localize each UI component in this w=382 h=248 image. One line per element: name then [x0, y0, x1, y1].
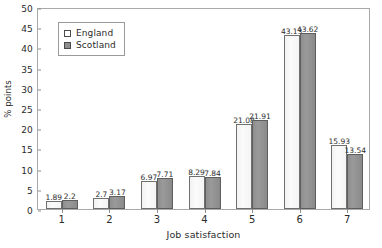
- bar-scotland-5: [252, 120, 268, 209]
- y-tick-label: 25: [21, 105, 38, 115]
- y-tick-mark: [38, 211, 41, 212]
- y-tick-mark: [38, 29, 41, 30]
- x-tick-label: 4: [201, 214, 207, 225]
- legend-label-england: England: [76, 28, 113, 38]
- x-tick-mark: [62, 209, 63, 213]
- bar-value-label: 1.89: [45, 193, 62, 202]
- y-tick-label: 20: [21, 125, 38, 135]
- bar-value-label: 15.93: [328, 137, 349, 146]
- y-tick-label: 10: [21, 166, 38, 176]
- y-tick-label: 50: [21, 4, 38, 14]
- bar-england-5: [236, 124, 252, 209]
- x-tick-mark: [347, 209, 348, 213]
- bar-value-label: 3.17: [109, 188, 126, 197]
- bar-value-label: 6.97: [141, 173, 158, 182]
- legend-label-scotland: Scotland: [76, 40, 116, 50]
- bar-england-3: [141, 181, 157, 209]
- legend-swatch-scotland-icon: [64, 42, 71, 49]
- x-axis-title: Job satisfaction: [37, 229, 370, 240]
- y-tick-label: 15: [21, 145, 38, 155]
- x-tick-mark: [252, 209, 253, 213]
- plot-area: 05101520253035404550 1234567 1.892.22.73…: [37, 8, 370, 210]
- x-tick-label: 5: [249, 214, 255, 225]
- y-tick-label: 30: [21, 85, 38, 95]
- bar-england-6: [284, 35, 300, 209]
- x-tick-mark: [205, 209, 206, 213]
- y-tick-mark: [38, 110, 41, 111]
- bar-scotland-7: [347, 154, 363, 209]
- bar-scotland-6: [300, 33, 316, 209]
- x-tick-label: 7: [344, 214, 350, 225]
- y-tick-mark: [38, 69, 41, 70]
- x-tick-mark: [300, 209, 301, 213]
- y-tick-mark: [38, 9, 41, 10]
- y-tick-mark: [38, 190, 41, 191]
- y-tick-mark: [38, 130, 41, 131]
- bar-value-label: 2.7: [95, 190, 107, 199]
- y-tick-label: 35: [21, 65, 38, 75]
- bar-scotland-2: [109, 196, 125, 209]
- bar-value-label: 43.62: [297, 25, 318, 34]
- bar-chart-figure: % points 05101520253035404550 1234567 1.…: [0, 0, 382, 248]
- x-tick-label: 6: [296, 214, 302, 225]
- bar-value-label: 13.54: [344, 146, 365, 155]
- y-tick-label: 5: [27, 186, 38, 196]
- bar-value-label: 7.71: [157, 170, 174, 179]
- bar-value-label: 7.84: [204, 169, 221, 178]
- bar-value-label: 8.29: [188, 168, 205, 177]
- x-tick-mark: [109, 209, 110, 213]
- bar-scotland-3: [157, 178, 173, 209]
- legend-item-england: England: [64, 27, 116, 39]
- y-tick-label: 45: [21, 24, 38, 34]
- x-tick-label: 2: [106, 214, 112, 225]
- y-tick-label: 0: [27, 206, 38, 216]
- legend: England Scotland: [58, 22, 125, 56]
- x-tick-mark: [157, 209, 158, 213]
- bar-value-label: 2.2: [64, 192, 76, 201]
- y-tick-mark: [38, 150, 41, 151]
- x-tick-label: 1: [59, 214, 65, 225]
- bar-england-4: [189, 176, 205, 209]
- y-tick-mark: [38, 89, 41, 90]
- y-axis-title: % points: [3, 63, 13, 135]
- legend-item-scotland: Scotland: [64, 39, 116, 51]
- bar-scotland-1: [62, 200, 78, 209]
- bar-value-label: 21.91: [249, 112, 270, 121]
- bar-england-1: [46, 201, 62, 209]
- x-tick-label: 3: [154, 214, 160, 225]
- y-tick-label: 40: [21, 44, 38, 54]
- legend-swatch-england-icon: [64, 30, 71, 37]
- bar-scotland-4: [205, 177, 221, 209]
- bar-england-2: [93, 198, 109, 209]
- y-tick-mark: [38, 170, 41, 171]
- y-tick-mark: [38, 49, 41, 50]
